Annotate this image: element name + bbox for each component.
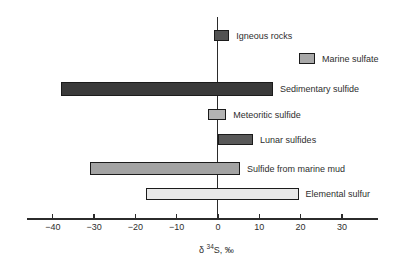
x-axis-tick-label: 10	[254, 222, 264, 232]
x-axis-tick	[176, 214, 177, 219]
range-bar	[90, 162, 240, 175]
range-bar	[61, 82, 273, 96]
x-axis-tick-label: 30	[337, 222, 347, 232]
x-axis-tick	[300, 214, 301, 219]
x-axis-tick-label: 0	[215, 222, 220, 232]
bar-label: Marine sulfate	[322, 54, 379, 64]
range-bar	[218, 134, 253, 145]
x-axis-tick	[52, 214, 53, 219]
x-axis-tick	[135, 214, 136, 219]
x-axis-tick-label: −10	[169, 222, 184, 232]
x-axis-title-isotope: 34	[207, 243, 214, 250]
range-bar	[208, 109, 227, 120]
bar-label: Sulfide from marine mud	[247, 164, 345, 174]
range-bar	[214, 30, 229, 41]
bar-label: Lunar sulfides	[260, 135, 316, 145]
x-axis-title: δ 34S, ‰	[199, 245, 234, 255]
x-axis-tick	[93, 214, 94, 219]
bar-label: Meteoritic sulfide	[233, 110, 301, 120]
range-bar	[299, 53, 316, 64]
x-axis-title-delta: δ	[199, 245, 204, 255]
x-axis-line	[27, 218, 378, 220]
x-axis-tick-label: −30	[86, 222, 101, 232]
x-axis-tick-label: −20	[128, 222, 143, 232]
x-axis-tick-label: −40	[45, 222, 60, 232]
x-axis-tick-label: 20	[296, 222, 306, 232]
bar-label: Elemental sulfur	[306, 189, 371, 199]
bar-label: Igneous rocks	[236, 31, 292, 41]
x-axis-tick	[217, 214, 218, 219]
bar-label: Sedimentary sulfide	[280, 84, 359, 94]
isotope-range-chart: −40−30−20−100102030Igneous rocksMarine s…	[0, 0, 399, 274]
range-bar	[146, 188, 299, 200]
x-axis-tick	[259, 214, 260, 219]
x-axis-title-rest: S, ‰	[214, 245, 234, 255]
x-axis-tick	[341, 214, 342, 219]
